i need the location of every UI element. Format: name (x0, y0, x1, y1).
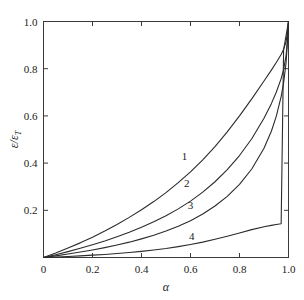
x-axis-tick-labels: 00.20.40.60.81.0 (41, 263, 296, 275)
x-axis-title-text: α (163, 280, 170, 294)
x-tick-label: 0.4 (135, 263, 149, 275)
curve-label-1: 1 (182, 150, 188, 162)
y-tick-label: 0.2 (24, 204, 38, 216)
x-tick-label: 0.2 (86, 263, 100, 275)
x-axis-title: α (163, 280, 170, 294)
figure-container: 00.20.40.60.81.0 0.20.40.60.81.0 1234 α … (0, 0, 304, 300)
y-tick-label: 0.8 (24, 63, 38, 75)
y-axis-title-text: ε/εT (7, 130, 23, 148)
y-axis-tick-labels: 0.20.40.60.81.0 (24, 16, 38, 217)
data-curves (44, 22, 289, 258)
chart-plot: 00.20.40.60.81.0 0.20.40.60.81.0 1234 α … (0, 0, 304, 300)
curve-labels: 1234 (182, 150, 195, 242)
y-axis-title: ε/εT (7, 130, 23, 148)
x-tick-label: 0 (41, 263, 47, 275)
y-tick-label: 0.4 (24, 157, 38, 169)
x-tick-label: 0.8 (233, 263, 247, 275)
y-tick-label: 0.6 (24, 110, 38, 122)
x-tick-label: 1.0 (282, 263, 296, 275)
x-tick-label: 0.6 (184, 263, 198, 275)
y-tick-label: 1.0 (24, 16, 38, 28)
data-curve-2 (44, 22, 289, 258)
curve-label-2: 2 (184, 177, 190, 189)
curve-label-3: 3 (188, 199, 194, 211)
curve-label-4: 4 (189, 230, 195, 242)
y-axis-title-rotated: ε/εT (7, 130, 23, 148)
